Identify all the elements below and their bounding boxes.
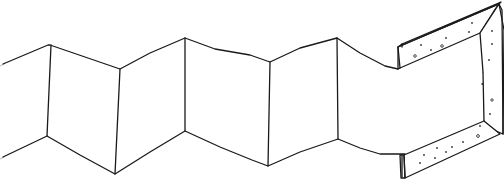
- fold-line-5: [337, 38, 338, 139]
- rectangular-frame: [398, 2, 504, 178]
- left-continuation-edges: [0, 64, 4, 159]
- accordion-bottom-edge: [3, 131, 405, 174]
- fold-line-1: [47, 45, 51, 136]
- fold-line-4: [268, 62, 270, 166]
- accordion-screen-drawing: [0, 0, 504, 195]
- frame-bottom-bar: [404, 121, 500, 178]
- fold-line-2: [115, 69, 120, 174]
- accordion-top-edge: [3, 38, 398, 69]
